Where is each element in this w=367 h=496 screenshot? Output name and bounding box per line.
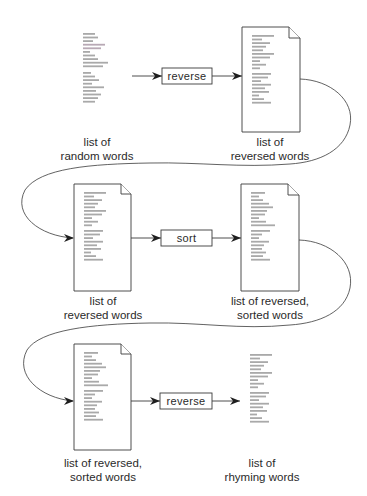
sorted-words-file-icon: [241, 184, 299, 291]
output-label-line2: reversed words: [231, 150, 310, 162]
input-label-line1: list of reversed,: [64, 457, 142, 469]
output-label-line1: list of reversed,: [231, 295, 309, 307]
output-label-line1: list of: [257, 136, 285, 148]
operation-label: reverse: [167, 395, 206, 407]
input-label-line2: random words: [61, 150, 134, 162]
operation-label: reverse: [168, 70, 207, 82]
input-label-line1: list of: [84, 136, 112, 148]
rhyming-words-list: [250, 354, 272, 423]
output-label-line2: sorted words: [237, 309, 303, 321]
arrowhead-icon: [64, 234, 74, 242]
input-label-line1: list of: [90, 295, 118, 307]
arrowhead-icon: [64, 397, 74, 405]
operation-label: sort: [177, 232, 197, 244]
output-label-line2: rhyming words: [225, 471, 300, 483]
input-label-line2: reversed words: [64, 309, 143, 321]
row-1: reverse list of random words list of rev…: [61, 27, 310, 162]
reversed-words-file-icon: [74, 184, 131, 291]
random-words-list: [83, 33, 108, 103]
pipeline-diagram: reverse list of random words list of rev…: [0, 0, 367, 496]
input-label-line2: sorted words: [70, 471, 136, 483]
row-2: sort list of reversed words list of reve…: [64, 184, 309, 321]
sorted-words-file-icon: [74, 344, 131, 450]
output-label-line1: list of: [249, 457, 277, 469]
row-3: reverse list of reversed, sorted words l…: [64, 344, 300, 483]
reversed-words-file-icon: [242, 27, 300, 132]
